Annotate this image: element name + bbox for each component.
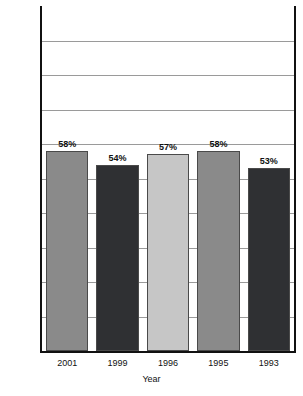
bar[interactable] <box>197 151 240 351</box>
right-axis-line <box>294 6 296 353</box>
bar-group[interactable]: 57% <box>147 6 190 351</box>
x-axis-title: Year <box>0 374 303 384</box>
bar-group[interactable]: 53% <box>248 6 291 351</box>
x-axis-tick-label: 1999 <box>92 358 142 368</box>
bar-value-label: 58% <box>46 139 89 149</box>
bar-chart: 58%54%57%58%53% 90%80%70%60%50%40%30%20%… <box>0 0 303 396</box>
x-axis-tick-label: 1996 <box>143 358 193 368</box>
bar-group[interactable]: 58% <box>197 6 240 351</box>
x-axis-line <box>40 351 296 353</box>
bar-value-label: 58% <box>197 139 240 149</box>
bar[interactable] <box>248 168 291 351</box>
bar[interactable] <box>96 165 139 351</box>
bars-layer: 58%54%57%58%53% <box>42 6 294 351</box>
bar[interactable] <box>46 151 89 351</box>
plot-area: 58%54%57%58%53% <box>40 6 296 353</box>
x-axis-tick-label: 2001 <box>42 358 92 368</box>
bar-group[interactable]: 58% <box>46 6 89 351</box>
x-axis-tick-label: 1995 <box>193 358 243 368</box>
bar-value-label: 54% <box>96 153 139 163</box>
bar-value-label: 57% <box>147 142 190 152</box>
bar[interactable] <box>147 154 190 351</box>
x-axis-tick-label: 1993 <box>244 358 294 368</box>
bar-group[interactable]: 54% <box>96 6 139 351</box>
bar-value-label: 53% <box>248 156 291 166</box>
